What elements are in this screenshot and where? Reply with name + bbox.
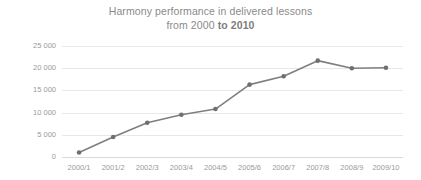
data-point-marker xyxy=(315,58,320,63)
x-axis-tick-label: 2008/9 xyxy=(340,163,363,173)
data-point-marker xyxy=(384,65,389,70)
y-axis-tick-label: 5 000 xyxy=(0,131,56,139)
x-axis-tick-labels: 2000/12001/22002/32003/42004/52005/62006… xyxy=(62,163,403,175)
series-markers xyxy=(77,58,389,155)
data-point-marker xyxy=(247,82,252,87)
plot-area xyxy=(62,46,403,157)
y-axis-tick-label: 15 000 xyxy=(0,86,56,94)
data-point-marker xyxy=(77,150,82,155)
x-axis-tick-label: 2004/5 xyxy=(204,163,227,173)
x-axis-tick-label: 2009/10 xyxy=(372,163,399,173)
x-axis-tick-label: 2000/1 xyxy=(68,163,91,173)
data-point-marker xyxy=(350,66,355,71)
chart-title-line-2-emphasis: to 2010 xyxy=(218,19,255,31)
data-point-marker xyxy=(145,121,150,126)
x-axis-tick-label: 2003/4 xyxy=(170,163,193,173)
chart-title: Harmony performance in delivered lessons… xyxy=(0,4,421,32)
y-axis-tick-label: 10 000 xyxy=(0,109,56,117)
y-axis-tick-label: 25 000 xyxy=(0,42,56,50)
data-point-marker xyxy=(281,74,286,79)
line-chart: Harmony performance in delivered lessons… xyxy=(0,0,421,180)
series-line xyxy=(79,61,386,153)
x-axis-tick-label: 2002/3 xyxy=(136,163,159,173)
x-axis-tick-label: 2001/2 xyxy=(102,163,125,173)
chart-title-line-1: Harmony performance in delivered lessons xyxy=(109,5,313,17)
series-layer xyxy=(62,46,403,157)
data-point-marker xyxy=(179,113,184,118)
x-axis-tick-label: 2007/8 xyxy=(306,163,329,173)
chart-title-line-2-prefix: from 2000 xyxy=(166,19,217,31)
chart-title-line-2: from 2000 to 2010 xyxy=(0,18,421,32)
x-axis-tick-label: 2006/7 xyxy=(272,163,295,173)
y-axis-tick-label: 20 000 xyxy=(0,64,56,72)
data-point-marker xyxy=(213,107,218,112)
data-point-marker xyxy=(111,135,116,140)
y-axis-tick-labels: 05 00010 00015 00020 00025 000 xyxy=(0,46,56,157)
x-axis-tick-label: 2005/6 xyxy=(238,163,261,173)
gridline xyxy=(62,157,403,158)
y-axis-tick-label: 0 xyxy=(0,153,56,161)
